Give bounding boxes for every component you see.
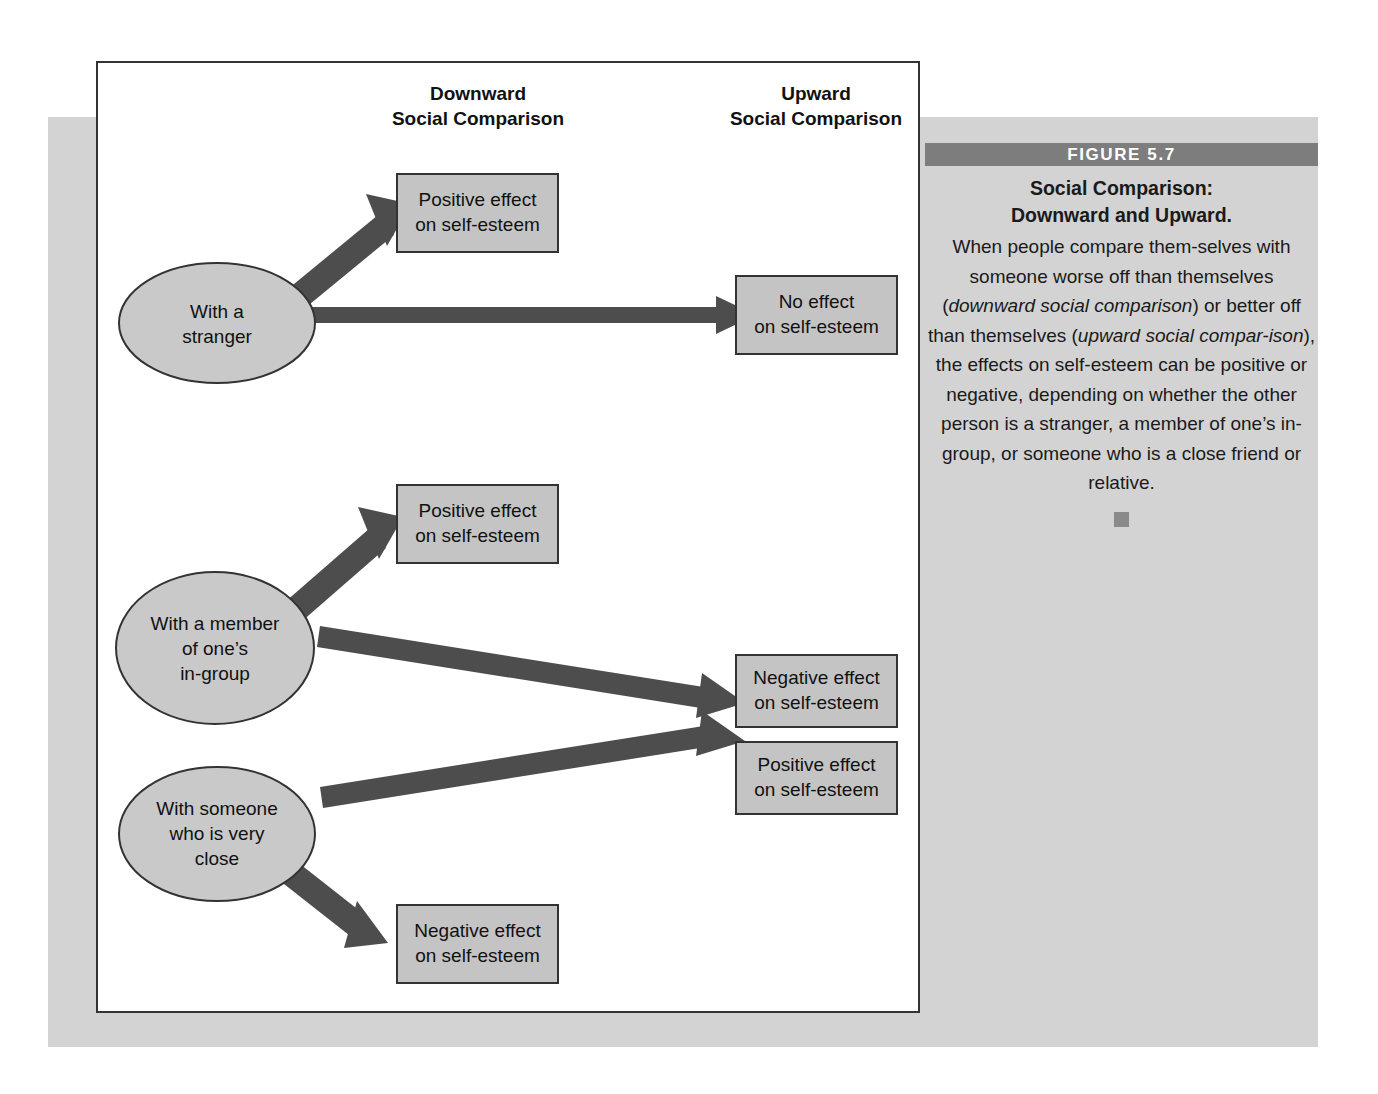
caption-emphasis-downward: downward social comparison [948, 295, 1192, 316]
figure-page: Downward Social Comparison Upward Social… [0, 0, 1378, 1094]
diagram-plate: Downward Social Comparison Upward Social… [96, 61, 920, 1013]
node-stranger[interactable] [119, 263, 315, 383]
figure-caption-text: When people compare them-selves with som… [925, 232, 1318, 498]
column-heading-upward: Upward Social Comparison [712, 81, 920, 131]
outcome-box-close-upward[interactable] [736, 742, 897, 814]
column-heading-downward: Downward Social Comparison [374, 81, 582, 131]
outcome-box-ingroup-upward[interactable] [736, 655, 897, 727]
arrow-ingroup-to-negative [317, 626, 745, 718]
figure-caption-column: FIGURE 5.7 Social Comparison: Downward a… [925, 143, 1318, 527]
figure-title: Social Comparison: Downward and Upward. [925, 175, 1318, 229]
outcome-box-stranger-upward[interactable] [736, 276, 897, 354]
caption-part-3: ), the effects on self-esteem can be pos… [936, 325, 1315, 494]
node-close[interactable] [119, 767, 315, 901]
outcome-box-close-downward[interactable] [397, 905, 558, 983]
arrow-close-to-positive [320, 711, 745, 808]
outcome-box-ingroup-downward[interactable] [397, 485, 558, 563]
caption-end-mark [1114, 512, 1129, 527]
figure-number-bar: FIGURE 5.7 [925, 143, 1318, 166]
outcome-box-stranger-downward[interactable] [397, 174, 558, 252]
caption-emphasis-upward: upward social compar-ison [1078, 325, 1304, 346]
node-in-group[interactable] [116, 572, 314, 724]
diagram-canvas [98, 63, 918, 1011]
